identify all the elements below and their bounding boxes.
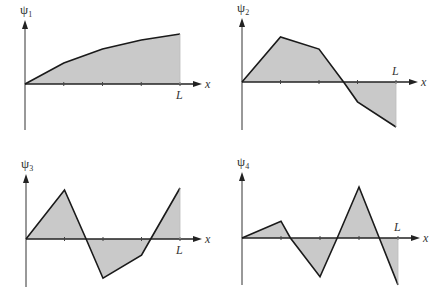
x-end-label-L: L xyxy=(391,64,399,78)
panel-psi3: ψ3xL xyxy=(21,156,211,287)
shaded-area xyxy=(25,34,180,84)
x-axis-label: x xyxy=(204,232,211,246)
x-axis-arrow-icon xyxy=(193,81,202,87)
panel-psi2: ψ2xL xyxy=(237,0,427,130)
x-axis-arrow-icon xyxy=(411,235,420,241)
x-axis-label: x xyxy=(204,77,211,91)
y-axis-label: ψ1 xyxy=(20,2,32,19)
shaded-area xyxy=(242,187,398,285)
shaded-area xyxy=(26,188,180,278)
x-end-label-L: L xyxy=(175,88,183,102)
x-axis-label: x xyxy=(422,231,429,245)
y-axis-label: ψ2 xyxy=(237,0,249,17)
wavefunction-figure: ψ1xL ψ2xL ψ3xL ψ4xL xyxy=(0,0,442,305)
panel-psi4: ψ4xL xyxy=(237,154,429,285)
panel-psi1: ψ1xL xyxy=(20,2,211,130)
y-axis-label: ψ3 xyxy=(21,156,33,173)
y-axis-arrow-icon xyxy=(23,174,29,183)
x-end-label-L: L xyxy=(393,220,401,234)
x-axis-arrow-icon xyxy=(409,79,418,85)
x-axis-label: x xyxy=(420,75,427,89)
x-axis-arrow-icon xyxy=(193,236,202,242)
y-axis-arrow-icon xyxy=(239,172,245,181)
x-end-label-L: L xyxy=(175,243,183,257)
y-axis-label: ψ4 xyxy=(237,154,249,171)
y-axis-arrow-icon xyxy=(22,20,28,29)
y-axis-arrow-icon xyxy=(239,18,245,27)
